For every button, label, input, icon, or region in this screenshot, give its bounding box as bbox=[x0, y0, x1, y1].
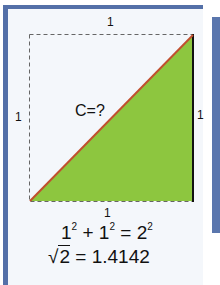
eq-exp-b: 2 bbox=[109, 221, 115, 232]
eq-rhs: 2 bbox=[137, 222, 148, 243]
square-root-result: √2 = 1.4142 bbox=[48, 247, 150, 266]
radical-icon: √ bbox=[48, 247, 58, 266]
eq-term-a: 1 bbox=[61, 222, 72, 243]
eq-term-b: 1 bbox=[99, 222, 110, 243]
top-side-label: 1 bbox=[107, 16, 114, 28]
eq-exp-rhs: 2 bbox=[147, 221, 153, 232]
left-side-label: 1 bbox=[15, 111, 22, 123]
sqrt-result: = 1.4142 bbox=[75, 246, 150, 267]
eq-equals: = bbox=[120, 222, 131, 243]
radicand: 2 bbox=[58, 245, 70, 267]
bottom-side-label: 1 bbox=[104, 207, 111, 219]
right-side-label: 1 bbox=[197, 109, 204, 121]
pythagorean-equation: 12 + 12 = 22 bbox=[61, 223, 153, 242]
eq-plus: + bbox=[82, 222, 93, 243]
hypotenuse-label: C=? bbox=[75, 103, 105, 119]
eq-exp-a: 2 bbox=[72, 221, 78, 232]
